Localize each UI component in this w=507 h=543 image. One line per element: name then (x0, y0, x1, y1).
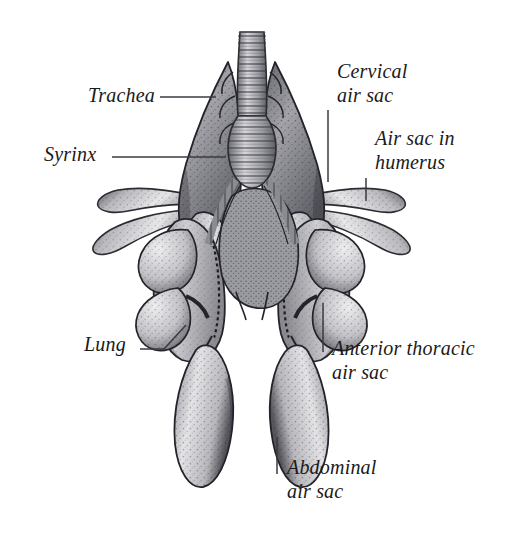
avian-respiratory-illustration (0, 0, 507, 543)
figure-canvas: TracheaSyrinxCervicalair sacAir sac inhu… (0, 0, 507, 543)
label-syrinx: Syrinx (44, 143, 96, 167)
label-abdominal-air-sac-line-2: air sac (287, 480, 377, 504)
label-cervical-air-sac-line-2: air sac (337, 84, 407, 108)
trachea (237, 32, 267, 116)
label-cervical-air-sac-line-1: Cervical (337, 60, 407, 84)
label-anterior-thoracic-air-sac: Anterior thoracicair sac (332, 337, 475, 384)
label-lung: Lung (84, 333, 126, 357)
label-air-sac-in-humerus-line-1: Air sac in (375, 127, 455, 151)
label-abdominal-air-sac: Abdominalair sac (287, 456, 377, 503)
label-cervical-air-sac: Cervicalair sac (337, 60, 407, 107)
label-lung-line-1: Lung (84, 333, 126, 357)
abdominal-air-sac-left (168, 344, 240, 492)
label-air-sac-in-humerus: Air sac inhumerus (375, 127, 455, 174)
label-syrinx-line-1: Syrinx (44, 143, 96, 167)
label-trachea-line-1: Trachea (88, 84, 155, 108)
label-trachea: Trachea (88, 84, 155, 108)
label-air-sac-in-humerus-line-2: humerus (375, 151, 455, 175)
label-anterior-thoracic-air-sac-line-1: Anterior thoracic (332, 337, 475, 361)
label-abdominal-air-sac-line-1: Abdominal (287, 456, 377, 480)
syrinx (228, 116, 276, 188)
label-anterior-thoracic-air-sac-line-2: air sac (332, 361, 475, 385)
